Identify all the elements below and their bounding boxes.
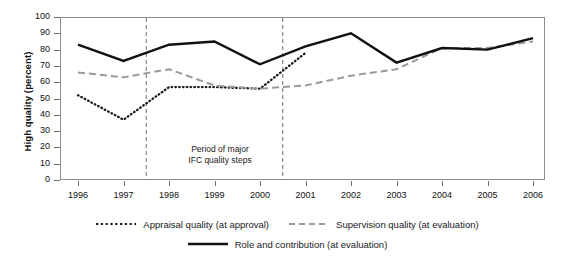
- legend-row-1: Appraisal quality (at approval) Supervis…: [0, 214, 575, 234]
- x-tick-label: 2003: [373, 190, 421, 200]
- legend-swatch-solid-icon: [188, 239, 228, 249]
- x-tick-label: 1996: [54, 190, 102, 200]
- legend-item-role-contribution[interactable]: Role and contribution (at evaluation): [188, 239, 388, 250]
- x-tick-mark: [397, 181, 398, 186]
- period-annotation: Period of major IFC quality steps: [150, 144, 290, 166]
- y-tick-mark: [54, 50, 60, 51]
- y-tick-mark: [54, 115, 60, 116]
- legend-item-appraisal-quality[interactable]: Appraisal quality (at approval): [96, 219, 269, 230]
- legend-label-appraisal-quality: Appraisal quality (at approval): [143, 219, 269, 230]
- y-tick-mark: [54, 147, 60, 148]
- y-tick-label: 60: [0, 77, 50, 86]
- y-tick-label: 80: [0, 45, 50, 54]
- y-tick-label: 90: [0, 28, 50, 37]
- x-tick-label: 1998: [145, 190, 193, 200]
- y-tick-mark: [54, 99, 60, 100]
- y-tick-mark: [54, 131, 60, 132]
- y-tick-label: 20: [0, 142, 50, 151]
- y-tick-label: 50: [0, 94, 50, 103]
- x-tick-label: 2001: [282, 190, 330, 200]
- legend-item-supervision-quality[interactable]: Supervision quality (at evaluation): [289, 219, 479, 230]
- x-tick-label: 1999: [191, 190, 239, 200]
- y-tick-label: 30: [0, 126, 50, 135]
- x-tick-mark: [78, 181, 79, 186]
- x-tick-label: 2004: [418, 190, 466, 200]
- y-tick-mark: [54, 66, 60, 67]
- x-tick-label: 2000: [236, 190, 284, 200]
- plot-area: [60, 17, 545, 180]
- chart-root: High quality (percent) 10090807060504030…: [0, 0, 575, 263]
- x-tick-mark: [124, 181, 125, 186]
- y-tick-label: 70: [0, 61, 50, 70]
- x-tick-mark: [488, 181, 489, 186]
- legend-row-2: Role and contribution (at evaluation): [0, 234, 575, 254]
- legend-label-supervision-quality: Supervision quality (at evaluation): [336, 219, 479, 230]
- y-tick-label: 0: [0, 175, 50, 184]
- x-tick-mark: [442, 181, 443, 186]
- legend-swatch-dashed-icon: [289, 219, 329, 229]
- y-tick-label: 100: [0, 12, 50, 21]
- x-tick-label: 2005: [464, 190, 512, 200]
- x-tick-mark: [306, 181, 307, 186]
- y-tick-mark: [54, 33, 60, 34]
- x-tick-label: 1997: [100, 190, 148, 200]
- y-tick-mark: [54, 17, 60, 18]
- chart-legend: Appraisal quality (at approval) Supervis…: [0, 214, 575, 254]
- x-tick-mark: [260, 181, 261, 186]
- annotation-line-1: Period of major: [150, 144, 290, 155]
- x-tick-mark: [351, 181, 352, 186]
- y-tick-label: 10: [0, 159, 50, 168]
- y-tick-mark: [54, 180, 60, 181]
- legend-label-role-contribution: Role and contribution (at evaluation): [235, 239, 388, 250]
- annotation-line-2: IFC quality steps: [150, 155, 290, 166]
- y-tick-mark: [54, 164, 60, 165]
- x-tick-mark: [169, 181, 170, 186]
- x-tick-label: 2002: [327, 190, 375, 200]
- x-tick-label: 2006: [509, 190, 557, 200]
- y-tick-label: 40: [0, 110, 50, 119]
- legend-swatch-dotted-icon: [96, 219, 136, 229]
- y-tick-mark: [54, 82, 60, 83]
- x-tick-mark: [533, 181, 534, 186]
- x-tick-mark: [215, 181, 216, 186]
